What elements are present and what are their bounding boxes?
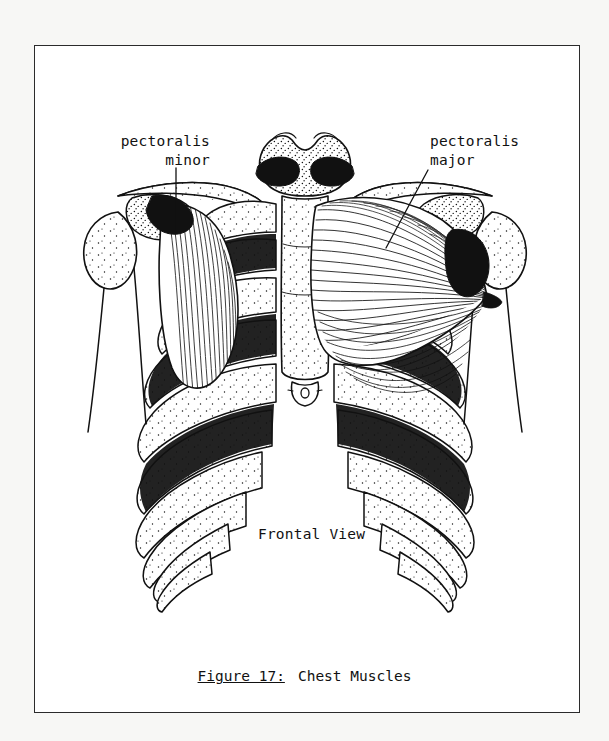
label-pectoralis-minor-line2: minor	[165, 152, 210, 168]
label-pectoralis-minor-line1: pectoralis	[121, 133, 210, 149]
label-pectoralis-major-line1: pectoralis	[430, 133, 519, 149]
label-pectoralis-major: pectoralismajor	[430, 132, 550, 170]
label-frontal-view: Frontal View	[258, 525, 365, 544]
caption-figure-number: Figure 17:	[198, 668, 285, 684]
caption-title: Chest Muscles	[298, 668, 412, 684]
figure-caption: Figure 17:Chest Muscles	[0, 668, 609, 684]
label-pectoralis-minor: pectoralisminor	[100, 132, 210, 170]
page-canvas: pectoralisminor pectoralismajor Frontal …	[0, 0, 609, 741]
label-pectoralis-major-line2: major	[430, 152, 475, 168]
